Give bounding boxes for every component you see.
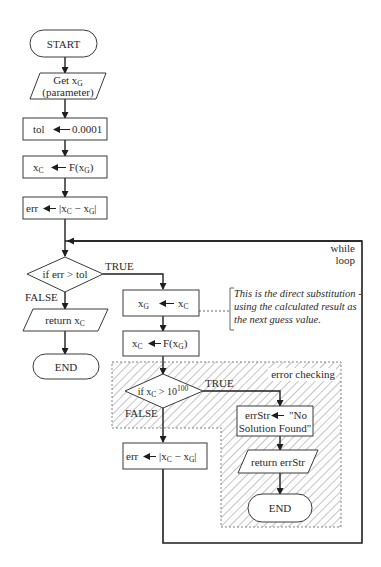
recalc-err-process: err |xC − xG| xyxy=(123,443,207,469)
annotation-note: This is the direct substitution - using … xyxy=(199,288,362,330)
svg-text:F(xG): F(xG) xyxy=(69,161,94,175)
err-str-process: errStr "No Solution Found" xyxy=(237,406,313,436)
svg-text:END: END xyxy=(55,361,78,373)
flowchart: while loop error checking START Get xG (… xyxy=(0,0,381,567)
false-label: FALSE xyxy=(125,407,158,419)
svg-text:if err > tol: if err > tol xyxy=(43,268,88,280)
return-xc-output: return xC xyxy=(23,309,108,331)
svg-text:This is the direct substitutio: This is the direct substitution - xyxy=(234,288,362,299)
true-label: TRUE xyxy=(205,377,234,389)
arrow-true-to-assign xyxy=(103,274,163,289)
svg-text:(parameter): (parameter) xyxy=(42,86,94,99)
error-checking-label: error checking xyxy=(271,368,335,380)
start-terminal: START xyxy=(30,30,97,57)
svg-text:return xC: return xC xyxy=(45,314,85,328)
svg-text:using the calculated result as: using the calculated result as xyxy=(234,301,357,312)
decision-err-gt-tol: if err > tol TRUE FALSE xyxy=(25,257,134,303)
end-terminal-error: END xyxy=(248,494,312,522)
while-loop-label-line1: while xyxy=(331,242,356,254)
svg-text:tol: tol xyxy=(33,123,45,135)
svg-text:"No: "No xyxy=(289,409,307,421)
calc-err-process: err |xC − xG| xyxy=(23,197,107,219)
svg-text:err: err xyxy=(26,202,39,214)
svg-text:the next guess value.: the next guess value. xyxy=(234,314,321,325)
calc-xc-process: xC F(xG) xyxy=(23,156,107,178)
get-xg-input: Get xG (parameter) xyxy=(30,73,106,99)
svg-text:START: START xyxy=(47,38,81,50)
true-label: TRUE xyxy=(105,260,134,272)
svg-text:err: err xyxy=(126,450,139,462)
return-errstr-output: return errStr xyxy=(238,450,318,473)
svg-text:END: END xyxy=(269,502,292,514)
false-label: FALSE xyxy=(25,291,58,303)
svg-text:0.0001: 0.0001 xyxy=(72,123,102,135)
tol-process: tol 0.0001 xyxy=(23,118,107,140)
end-terminal-main: END xyxy=(33,354,99,379)
while-loop-label-line2: loop xyxy=(335,254,355,266)
recalc-xc-process: xC F(xG) xyxy=(123,331,199,356)
svg-text:Solution Found": Solution Found" xyxy=(239,422,312,434)
assign-xg-process: xG xC xyxy=(123,290,199,316)
svg-text:return errStr: return errStr xyxy=(251,456,305,468)
svg-text:F(xG): F(xG) xyxy=(163,337,188,351)
svg-text:errStr: errStr xyxy=(245,409,270,421)
